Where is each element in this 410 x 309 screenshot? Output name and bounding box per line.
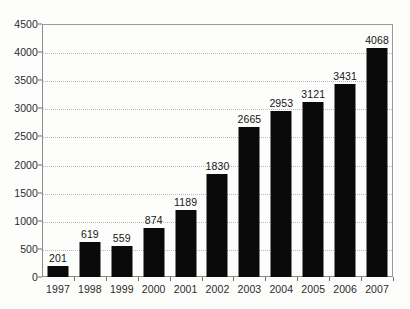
x-axis-tick-mark: [106, 277, 107, 281]
bar: [367, 48, 388, 277]
x-axis-tick-mark: [74, 277, 75, 281]
bar-slot: 559: [106, 24, 138, 277]
x-axis-tick-label: 2005: [301, 283, 325, 295]
x-axis-tick-mark: [202, 277, 203, 281]
bar: [79, 242, 100, 277]
x-axis-tick-label: 2001: [174, 283, 198, 295]
x-axis-tick-mark: [265, 277, 266, 281]
bars-group: 2016195598741189183026652953312134314068: [42, 24, 393, 277]
bar-value-label: 874: [145, 214, 163, 226]
bar-slot: 1189: [170, 24, 202, 277]
bar-chart-figure: 050010001500200025003000350040004500 201…: [0, 0, 410, 309]
bar: [271, 111, 292, 277]
x-axis-tick-mark: [297, 277, 298, 281]
x-axis-tick-label: 1997: [46, 283, 70, 295]
x-axis-tick-mark: [138, 277, 139, 281]
bar-slot: 2953: [265, 24, 297, 277]
x-axis-tick-mark: [361, 277, 362, 281]
y-axis-tick-label: 4000: [0, 46, 38, 58]
x-axis-tick-mark: [170, 277, 171, 281]
bar: [303, 102, 324, 277]
bar-value-label: 1189: [174, 196, 197, 208]
bar-slot: 619: [74, 24, 106, 277]
y-axis-tick-label: 0: [0, 271, 38, 283]
x-axis-tick-label: 2003: [238, 283, 262, 295]
y-axis-tick-label: 3000: [0, 102, 38, 114]
bar-value-label: 619: [81, 228, 99, 240]
bar: [335, 84, 356, 277]
x-axis-tick-mark: [393, 277, 394, 281]
bar-slot: 201: [42, 24, 74, 277]
x-axis-tick-label: 2002: [206, 283, 230, 295]
x-axis-tick-label: 1999: [110, 283, 134, 295]
bar-value-label: 201: [49, 252, 67, 264]
y-axis-tick-label: 2500: [0, 130, 38, 142]
bar-value-label: 3431: [333, 70, 357, 82]
bar: [175, 210, 196, 277]
bar-value-label: 2953: [269, 97, 293, 109]
y-axis-tick-label: 500: [0, 243, 38, 255]
y-axis-tick-label: 1500: [0, 187, 38, 199]
bar-slot: 1830: [202, 24, 234, 277]
bar: [239, 127, 260, 277]
bar-value-label: 1830: [206, 160, 230, 172]
bar-value-label: 3121: [301, 88, 325, 100]
bar-slot: 3121: [297, 24, 329, 277]
bar-slot: 4068: [361, 24, 393, 277]
bar-value-label: 2665: [238, 113, 262, 125]
y-axis-tick-label: 1000: [0, 215, 38, 227]
bar-slot: 3431: [329, 24, 361, 277]
bar: [47, 266, 68, 277]
x-axis-tick-label: 2000: [142, 283, 166, 295]
x-axis-tick-mark: [233, 277, 234, 281]
bar: [207, 174, 228, 277]
x-axis-tick-label: 2007: [365, 283, 389, 295]
y-axis-tick-label: 2000: [0, 159, 38, 171]
bar-slot: 874: [138, 24, 170, 277]
bar: [111, 246, 132, 277]
x-axis-tick-label: 1998: [78, 283, 102, 295]
y-axis-tick-label: 3500: [0, 74, 38, 86]
bar: [143, 228, 164, 277]
x-axis-tick-label: 2004: [269, 283, 293, 295]
bar-slot: 2665: [233, 24, 265, 277]
bar-value-label: 4068: [365, 34, 389, 46]
bar-value-label: 559: [113, 232, 131, 244]
x-axis-tick-mark: [329, 277, 330, 281]
y-axis-tick-label: 4500: [0, 18, 38, 30]
x-axis-tick-label: 2006: [333, 283, 357, 295]
